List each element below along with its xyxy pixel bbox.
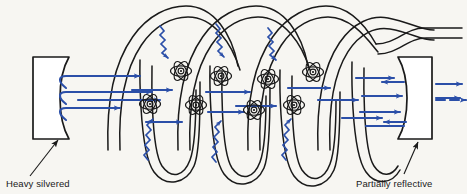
output-beam xyxy=(436,84,466,100)
left-mirror-body xyxy=(33,57,69,139)
right-mirror-reflected xyxy=(382,82,406,122)
coil-arch-group-inner xyxy=(120,17,434,150)
atom-icon xyxy=(211,64,232,87)
left-mirror xyxy=(33,57,69,139)
right-mirror-label-line1: Partially reflective xyxy=(356,178,432,190)
coil-loop-1b xyxy=(152,66,196,175)
atom-icon xyxy=(303,60,324,83)
coil-lead-wires xyxy=(376,28,462,54)
squiggle-up-1 xyxy=(144,119,153,160)
cavity-beams-rightward xyxy=(132,78,394,122)
right-mirror-label: Partially reflective lightly silvered xyxy=(356,155,432,194)
left-mirror-label-line1: Heavy silvered xyxy=(6,178,70,190)
beam-uturn-1 xyxy=(60,76,140,88)
beam-uturn-2 xyxy=(60,92,152,104)
squiggle-down-1 xyxy=(160,26,168,58)
atom-icon xyxy=(140,92,161,115)
coil-lead-upper xyxy=(376,28,462,44)
atom-icon xyxy=(186,93,207,116)
atom-icon xyxy=(284,93,305,116)
beam-uturn-3 xyxy=(60,108,120,120)
left-mirror-label: Heavy silvered total reflective xyxy=(6,155,70,194)
figure-canvas: Heavy silvered total reflective Partiall… xyxy=(0,0,467,194)
atom-icon xyxy=(258,67,279,90)
